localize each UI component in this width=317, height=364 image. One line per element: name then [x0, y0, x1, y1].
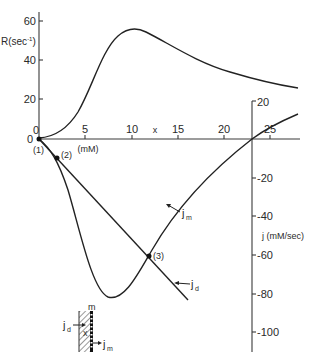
- jm-curve-label: j m: [166, 204, 192, 221]
- tick-origin-0: 0: [27, 133, 33, 145]
- svg-text:d: d: [67, 326, 71, 333]
- tick-right-neg80: -80: [257, 288, 273, 300]
- svg-text:j: j: [181, 207, 184, 219]
- svg-text:m: m: [186, 214, 192, 221]
- left-axis: 60 40 20 R(sec-1) 0 0: [1, 12, 43, 145]
- arrow-icon: [98, 341, 102, 345]
- r-axis-label: R(sec-1): [1, 36, 36, 47]
- tick-left-40: 40: [24, 54, 36, 66]
- tick-x-15: 15: [172, 123, 184, 135]
- inset-membrane-diagram: m x j d j m: [62, 302, 113, 352]
- tick-right-20: 20: [257, 96, 269, 108]
- svg-text:j: j: [102, 338, 105, 350]
- tick-left-60: 60: [24, 15, 36, 27]
- svg-text:m: m: [107, 345, 113, 352]
- j-axis-label: j (mM/sec): [261, 231, 304, 241]
- inset-x-label: x: [83, 328, 88, 338]
- tick-x-10: 10: [126, 123, 138, 135]
- point-3-label: (3): [153, 251, 164, 261]
- point-3-marker: [147, 254, 152, 259]
- point-2-marker: [55, 156, 60, 161]
- r-curve: [39, 29, 298, 138]
- x-axis-label: x: [153, 125, 158, 135]
- chart-figure: 60 40 20 R(sec-1) 0 0 5 10 15 20 25 x (m…: [0, 0, 317, 364]
- svg-text:d: d: [195, 285, 199, 292]
- jd-line: [39, 139, 188, 300]
- inset-m-label: m: [88, 302, 96, 312]
- point-2-label: (2): [61, 150, 72, 160]
- x-unit-label: (mM): [78, 144, 99, 154]
- tick-left-20: 20: [24, 93, 36, 105]
- tick-x-0: 0: [33, 124, 39, 136]
- tick-x-5: 5: [82, 123, 88, 135]
- point-1-label: (1): [33, 145, 44, 155]
- tick-right-neg20: -20: [257, 172, 273, 184]
- svg-text:j: j: [190, 278, 193, 290]
- tick-right-neg100: -100: [257, 326, 279, 338]
- arrow-icon: [174, 281, 179, 285]
- tick-right-neg60: -60: [257, 249, 273, 261]
- svg-text:j: j: [62, 319, 65, 331]
- tick-x-20: 20: [218, 123, 230, 135]
- point-1-marker: [37, 137, 42, 142]
- x-axis: 5 10 15 20 25 x (mM): [39, 123, 300, 154]
- tick-right-neg40: -40: [257, 210, 273, 222]
